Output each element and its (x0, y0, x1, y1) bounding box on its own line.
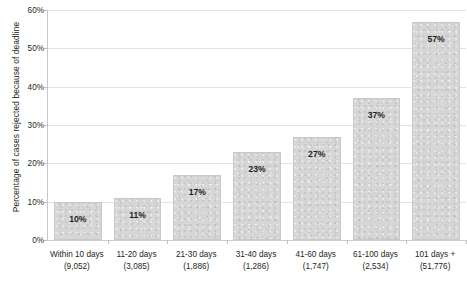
bar-value-label: 10% (55, 214, 101, 224)
x-axis-category-label: 41-60 days(1,747) (286, 249, 346, 272)
plot-area: 0%10%20%30%40%50%60%10%11%17%23%27%37%57… (47, 10, 465, 240)
category-count: (1,747) (286, 261, 346, 273)
y-axis-label: 20% (4, 159, 44, 168)
category-name: 41-60 days (295, 250, 336, 259)
bar: 27% (293, 137, 341, 241)
y-axis-tick (44, 240, 48, 241)
y-axis-tick (44, 125, 48, 126)
y-axis-tick (44, 10, 48, 11)
x-axis-category-label: Within 10 days(9,052) (47, 249, 107, 272)
gridline-50 (48, 48, 466, 49)
category-name: 31-40 days (236, 250, 277, 259)
category-name: 11-20 days (117, 250, 157, 259)
gridline-0 (48, 240, 466, 241)
category-name: 61-100 days (353, 250, 398, 259)
x-axis-tick (167, 240, 168, 244)
x-axis-tick (406, 240, 407, 244)
y-axis-tick (44, 48, 48, 49)
bar-value-label: 27% (294, 149, 340, 159)
y-axis-label: 0% (4, 236, 44, 245)
x-axis-tick (287, 240, 288, 244)
bar-value-label: 23% (234, 164, 280, 174)
y-axis-label: 30% (4, 121, 44, 130)
y-axis-tick (44, 87, 48, 88)
gridline-30 (48, 125, 466, 126)
y-axis-label: 50% (4, 44, 44, 53)
x-axis-tick (108, 240, 109, 244)
category-count: (3,085) (107, 261, 167, 273)
bar-value-label: 37% (354, 110, 400, 120)
bar-value-label: 57% (413, 34, 459, 44)
bar: 10% (54, 202, 102, 240)
bar: 37% (353, 98, 401, 240)
x-axis-tick (347, 240, 348, 244)
y-axis-label: 40% (4, 82, 44, 91)
category-name: 101 days + (415, 250, 455, 259)
category-count: (51,776) (405, 261, 465, 273)
x-axis-category-label: 61-100 days(2,534) (346, 249, 406, 272)
bar-value-label: 17% (174, 187, 220, 197)
y-axis-tick (44, 202, 48, 203)
bar: 23% (233, 152, 281, 240)
category-count: (2,534) (346, 261, 406, 273)
category-count: (1,286) (226, 261, 286, 273)
y-axis-label: 60% (4, 6, 44, 15)
y-axis-tick (44, 163, 48, 164)
x-axis-tick (227, 240, 228, 244)
category-name: 21-30 days (176, 250, 217, 259)
gridline-40 (48, 87, 466, 88)
bar: 57% (412, 22, 460, 241)
bar: 17% (173, 175, 221, 240)
bar-value-label: 11% (115, 210, 161, 220)
x-axis-category-label: 31-40 days(1,286) (226, 249, 286, 272)
category-name: Within 10 days (50, 250, 104, 259)
y-axis-label: 10% (4, 197, 44, 206)
x-axis-category-label: 101 days +(51,776) (405, 249, 465, 272)
x-axis-category-label: 11-20 days(3,085) (107, 249, 167, 272)
category-count: (9,052) (47, 261, 107, 273)
category-count: (1,886) (166, 261, 226, 273)
gridline-60 (48, 10, 466, 11)
x-axis-category-label: 21-30 days(1,886) (166, 249, 226, 272)
bar: 11% (114, 198, 162, 240)
